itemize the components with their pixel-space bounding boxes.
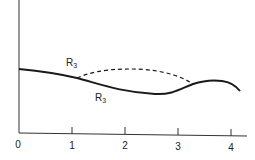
x-tick-label-1: 1 (69, 140, 75, 151)
solid-path-curve (19, 69, 240, 94)
x-tick-label-0: 0 (15, 139, 21, 150)
diagram-canvas: 0 1 2 3 4 R3 R3 (0, 0, 255, 160)
curve-label-lower: R3 (95, 92, 106, 104)
x-axis (19, 133, 247, 136)
x-tick-label-4: 4 (228, 142, 234, 153)
x-tick-label-2: 2 (122, 140, 128, 151)
dashed-path-curve (77, 69, 193, 84)
x-tick-label-3: 3 (175, 141, 181, 152)
curve-label-upper: R3 (66, 57, 77, 69)
